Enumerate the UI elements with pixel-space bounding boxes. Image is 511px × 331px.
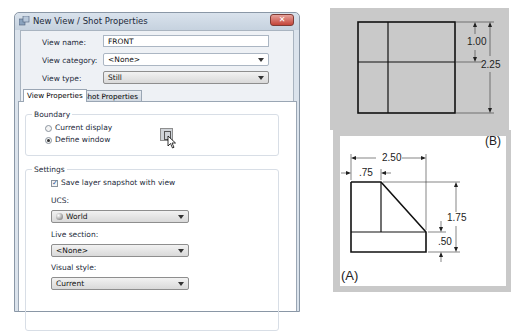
drawing-a-panel: (B) 2.50 .75 1.75 .50 (A) (340, 136, 506, 286)
live-section-label: Live section: (51, 230, 98, 239)
view-category-label: View category: (42, 56, 97, 65)
define-window-label: Define window (55, 135, 110, 144)
label-a: (A) (341, 268, 358, 283)
chevron-down-icon (258, 76, 264, 80)
save-layer-snapshot-label: Save layer snapshot with view (61, 178, 175, 187)
dimension-0-75: .75 (359, 167, 373, 178)
app-icon (19, 16, 30, 26)
view-type-value: Still (108, 73, 122, 82)
view-name-label: View name: (42, 38, 86, 47)
visual-style-label: Visual style: (51, 263, 96, 272)
view-properties-panel: Boundary Current display Define window S… (18, 101, 297, 311)
drawing-a-svg (340, 136, 506, 286)
current-display-radio[interactable] (45, 125, 52, 132)
chevron-down-icon (178, 282, 184, 286)
ucs-label: UCS: (51, 196, 69, 205)
current-display-label: Current display (55, 123, 112, 132)
live-section-dropdown[interactable]: <None> (51, 244, 189, 257)
dimension-1-00: 1.00 (467, 36, 486, 47)
tab-view-properties[interactable]: View Properties (23, 89, 87, 102)
dimension-0-50: .50 (438, 236, 452, 247)
save-layer-snapshot-checkbox[interactable]: ✓ (51, 180, 58, 187)
close-button[interactable]: ✕ (270, 14, 294, 26)
visual-style-dropdown[interactable]: Current (51, 277, 189, 290)
dimension-1-75: 1.75 (447, 212, 466, 223)
chevron-down-icon (258, 58, 264, 62)
settings-group-title: Settings (32, 165, 67, 174)
ucs-value: World (66, 212, 88, 221)
dialog-title: New View / Shot Properties (33, 16, 148, 26)
boundary-group-title: Boundary (32, 110, 72, 119)
close-icon: ✕ (279, 15, 286, 24)
visual-style-value: Current (56, 279, 84, 288)
dimension-2-50: 2.50 (382, 152, 401, 163)
ucs-dropdown[interactable]: World (51, 210, 189, 223)
define-window-radio[interactable] (45, 137, 52, 144)
view-category-value: <None> (108, 55, 140, 64)
chevron-down-icon (178, 249, 184, 253)
boundary-group: Boundary Current display Define window (25, 114, 279, 156)
live-section-value: <None> (56, 246, 88, 255)
chevron-down-icon (178, 215, 184, 219)
view-type-dropdown[interactable]: Still (103, 71, 269, 84)
world-ucs-icon (56, 213, 63, 220)
new-view-shot-properties-dialog: New View / Shot Properties ✕ View name: … (14, 12, 300, 312)
title-bar[interactable]: New View / Shot Properties ✕ (15, 13, 299, 30)
settings-group: Settings ✓ Save layer snapshot with view… (25, 169, 279, 331)
view-category-dropdown[interactable]: <None> (103, 53, 269, 66)
dimension-2-25: 2.25 (481, 59, 500, 70)
view-name-input[interactable]: FRONT (103, 35, 269, 47)
view-type-label: View type: (42, 74, 81, 83)
mouse-cursor-icon (167, 135, 177, 149)
drawing-b-panel: 1.00 2.25 (330, 8, 509, 130)
